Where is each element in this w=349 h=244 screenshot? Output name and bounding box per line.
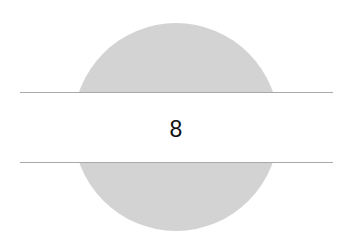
number-label: 8 — [0, 114, 349, 144]
bottom-divider-line — [20, 162, 333, 163]
top-divider-line — [20, 92, 333, 93]
